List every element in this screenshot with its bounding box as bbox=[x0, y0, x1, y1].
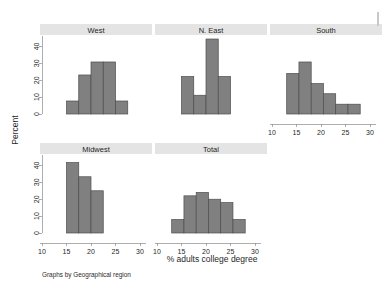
histogram-bar bbox=[299, 62, 311, 114]
y-tick-label: 10 bbox=[33, 93, 40, 101]
x-tick-label: 25 bbox=[112, 248, 120, 255]
y-tick-label: 30 bbox=[33, 178, 40, 186]
x-axis-title: % adults college degree bbox=[167, 254, 258, 264]
x-tick-label: 15 bbox=[293, 129, 301, 136]
histogram-bar bbox=[194, 95, 206, 114]
histogram-bar bbox=[91, 191, 103, 233]
x-tick-label: 20 bbox=[87, 248, 95, 255]
y-axis-title: Percent bbox=[10, 115, 20, 145]
histogram-bar bbox=[172, 219, 184, 233]
x-tick-label: 25 bbox=[342, 129, 350, 136]
x-tick-label: 15 bbox=[63, 248, 71, 255]
y-tick-label: 0 bbox=[33, 112, 40, 116]
histogram-bar bbox=[206, 39, 218, 114]
histogram-bar bbox=[67, 101, 79, 114]
histogram-bar bbox=[287, 73, 299, 114]
histogram-bar bbox=[182, 77, 194, 114]
y-tick-label: 30 bbox=[33, 59, 40, 67]
panel-title-midwest: Midwest bbox=[82, 145, 110, 154]
y-tick-label: 0 bbox=[33, 231, 40, 235]
figure-caption: Graphs by Geographical region bbox=[42, 271, 131, 279]
histogram-bar bbox=[323, 94, 335, 114]
x-tick-label: 30 bbox=[366, 129, 374, 136]
histogram-bar bbox=[196, 192, 208, 233]
histogram-bar bbox=[218, 77, 230, 114]
histogram-bar bbox=[67, 163, 79, 233]
x-tick-label: 30 bbox=[136, 248, 144, 255]
panel-title-south: South bbox=[316, 26, 336, 35]
panel-title-n-east: N. East bbox=[199, 26, 225, 35]
x-tick-label: 10 bbox=[268, 129, 276, 136]
panel-title-west: West bbox=[88, 26, 106, 35]
histogram-bar bbox=[233, 219, 245, 233]
histogram-bar bbox=[184, 196, 196, 233]
y-tick-label: 20 bbox=[33, 195, 40, 203]
histogram-bar bbox=[79, 177, 91, 233]
histogram-bar bbox=[103, 62, 115, 114]
histogram-bar bbox=[348, 104, 360, 114]
y-tick-label: 40 bbox=[33, 161, 40, 169]
histogram-bar bbox=[221, 203, 233, 233]
x-tick-label: 10 bbox=[153, 248, 161, 255]
histogram-bar bbox=[79, 75, 91, 114]
histogram-svg: West010203040N. EastSouth1015202530Midwe… bbox=[0, 0, 384, 299]
histogram-bar bbox=[208, 199, 220, 233]
histogram-bar bbox=[311, 84, 323, 114]
histogram-bar bbox=[116, 101, 128, 114]
histogram-bar bbox=[91, 62, 103, 114]
y-tick-label: 20 bbox=[33, 76, 40, 84]
panel-title-total: Total bbox=[203, 145, 219, 154]
y-tick-label: 40 bbox=[33, 42, 40, 50]
histogram-bar bbox=[336, 104, 348, 114]
x-tick-label: 10 bbox=[38, 248, 46, 255]
x-tick-label: 20 bbox=[317, 129, 325, 136]
histogram-figure: West010203040N. EastSouth1015202530Midwe… bbox=[0, 0, 384, 299]
y-tick-label: 10 bbox=[33, 212, 40, 220]
edge-artifact bbox=[377, 12, 379, 26]
